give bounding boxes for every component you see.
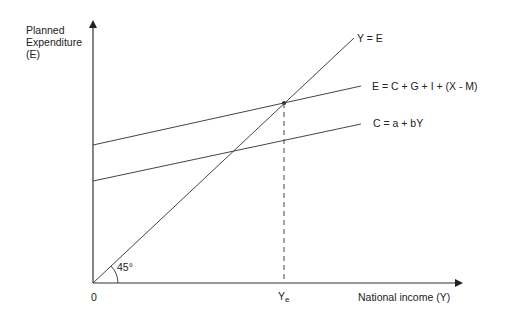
equilibrium-label-subscript: e [285,295,289,304]
origin-label: 0 [91,291,97,303]
aggregate-expenditure-label: E = C + G + I + (X - M) [372,80,478,92]
equilibrium-income-label: Ye [278,290,289,306]
x-axis-label: National income (Y) [358,291,450,303]
y-axis-label-line-3: (E) [26,48,82,60]
forty-five-degree-line [93,38,354,283]
y-axis-label-line-2: Expenditure [26,36,82,48]
equilibrium-label-main: Y [278,290,285,302]
forty-five-line-label: Y = E [357,32,383,44]
consumption-line [93,124,361,181]
y-axis-label: Planned Expenditure (E) [26,24,82,60]
angle-label: 45° [117,261,133,273]
aggregate-expenditure-line [93,86,361,145]
consumption-label: C = a + bY [373,117,423,129]
y-axis-label-line-1: Planned [26,24,82,36]
